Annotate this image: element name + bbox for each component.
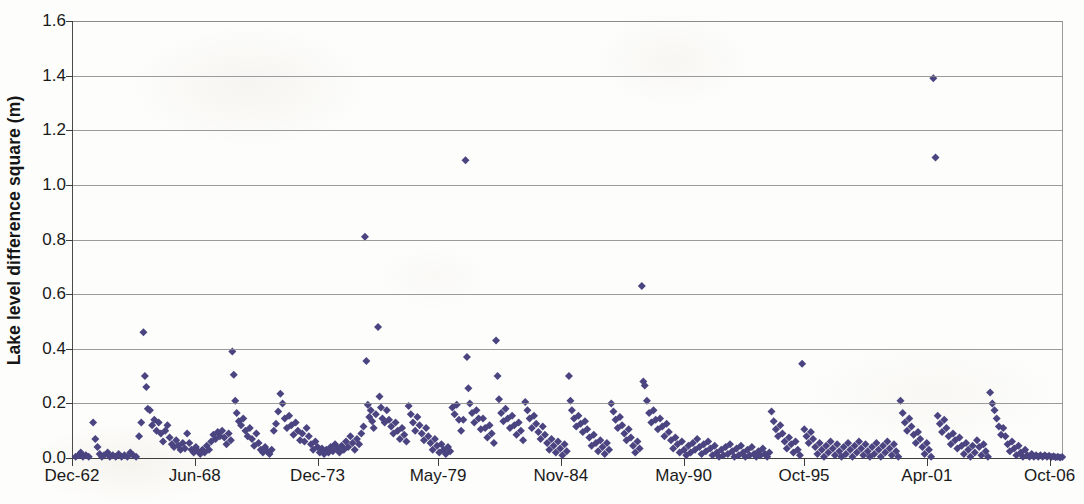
y-axis-tick-label: 0.6 [26,284,66,304]
x-axis-tick-label: Jun-68 [169,466,221,486]
y-axis-tick-label: 0.2 [26,393,66,413]
data-point [523,406,531,414]
x-axis-tick-mark [72,459,73,466]
x-axis-tick-label: May-90 [655,466,712,486]
y-axis-tick-label: 1.6 [26,11,66,31]
data-point [934,412,942,420]
y-axis-tick-mark [66,21,73,22]
x-axis-tick-label: Oct-06 [1024,466,1075,486]
data-point [991,406,999,414]
data-point [459,416,467,424]
data-point [357,429,365,437]
data-point [374,323,382,331]
data-point [137,418,145,426]
gridline [72,130,1063,131]
x-axis-tick-label: May-79 [410,466,467,486]
y-axis-tick-label: 1.0 [26,175,66,195]
data-point [986,388,994,396]
data-point [770,417,778,425]
data-point [142,383,150,391]
data-point [768,408,776,416]
data-point [185,439,193,447]
y-axis-tick-mark [66,76,73,77]
data-point [94,443,102,451]
x-axis-tick-mark [804,459,805,466]
y-axis-tick-label: 0.0 [26,448,66,468]
data-point [899,409,907,417]
data-point [376,393,384,401]
gridline [72,403,1063,404]
data-point [931,154,939,162]
data-point [91,435,99,443]
plot-area [72,21,1063,458]
data-point [183,429,191,437]
y-axis-tick-mark [66,130,73,131]
gridline [72,21,1063,22]
y-axis-tick-mark [66,403,73,404]
y-axis-tick-labels: 0.00.20.40.60.81.01.21.41.6 [22,0,66,504]
y-axis-tick-label: 0.8 [26,230,66,250]
data-point [370,424,378,432]
x-axis-tick-label: Dec-73 [290,466,345,486]
data-point [135,432,143,440]
data-point [272,420,280,428]
x-axis-tick-mark [318,459,319,466]
x-axis-tick-mark [438,459,439,466]
x-axis-tick-label: Apr-01 [901,466,952,486]
data-point [141,372,149,380]
x-axis-tick-mark [1050,459,1051,466]
data-point [362,357,370,365]
data-point [233,409,241,417]
data-point [89,418,97,426]
data-point [993,414,1001,422]
data-point [479,414,487,422]
data-point [568,406,576,414]
gridline [72,294,1063,295]
data-point [461,156,469,164]
x-axis-line [72,458,1063,459]
data-point [490,439,498,447]
data-point [494,372,502,380]
gridline [72,76,1063,77]
data-point [270,427,278,435]
gridline [72,349,1063,350]
data-point [276,390,284,398]
x-axis-tick-label: Dec-62 [45,466,100,486]
data-point [359,423,367,431]
gridline [72,185,1063,186]
data-point [609,408,617,416]
data-point [457,427,465,435]
chart-figure: Lake level difference square (m) 0.00.20… [0,0,1084,504]
y-axis-tick-mark [66,349,73,350]
data-point [230,371,238,379]
x-axis-tick-label: Nov-84 [533,466,588,486]
gridline [72,240,1063,241]
y-axis-tick-mark [66,294,73,295]
data-point [492,337,500,345]
x-axis-tick-label: Oct-95 [779,466,830,486]
y-axis-tick-label: 1.4 [26,66,66,86]
data-point [495,395,503,403]
x-axis-tick-mark [195,459,196,466]
y-axis-tick-label: 0.4 [26,339,66,359]
x-axis-tick-mark [927,459,928,466]
y-axis-tick-mark [66,185,73,186]
x-axis-tick-mark [561,459,562,466]
data-point [464,384,472,392]
data-point [973,436,981,444]
data-point [274,408,282,416]
data-point [565,372,573,380]
data-point [159,438,167,446]
data-point [521,398,529,406]
data-point [139,328,147,336]
data-point [638,282,646,290]
data-point [303,424,311,432]
data-point [519,436,527,444]
data-point [798,360,806,368]
data-point [252,429,260,437]
data-point [451,410,459,418]
y-axis-tick-mark [66,240,73,241]
data-point [463,353,471,361]
x-axis-tick-mark [684,459,685,466]
y-axis-tick-label: 1.2 [26,120,66,140]
